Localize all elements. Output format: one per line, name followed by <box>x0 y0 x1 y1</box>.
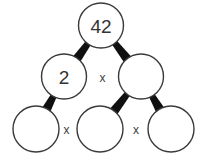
node-mid-right[interactable] <box>119 54 164 99</box>
node-mid-left[interactable]: 2 <box>42 54 87 99</box>
node-top[interactable]: 42 <box>79 3 124 48</box>
node-bottom-left[interactable] <box>13 106 59 152</box>
node-value-top: 42 <box>90 16 111 37</box>
factor-tree-diagram: 422 xxx <box>0 0 208 159</box>
factor-tree-canvas: 422 xxx <box>0 0 208 159</box>
node-circle-bottom-center[interactable] <box>77 106 123 152</box>
operator-op-middle: x <box>100 71 106 85</box>
operator-op-bottom-right: x <box>133 123 139 137</box>
node-circle-bottom-right[interactable] <box>148 106 194 152</box>
node-circle-bottom-left[interactable] <box>13 106 59 152</box>
node-bottom-right[interactable] <box>148 106 194 152</box>
node-value-mid-left: 2 <box>59 67 70 88</box>
node-bottom-center[interactable] <box>77 106 123 152</box>
operator-op-bottom-left: x <box>64 123 70 137</box>
node-circle-mid-right[interactable] <box>119 54 164 99</box>
